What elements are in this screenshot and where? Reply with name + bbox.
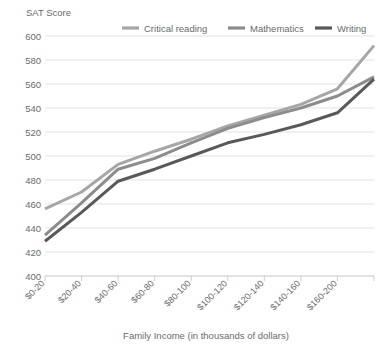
y-tick-label: 540	[25, 103, 41, 114]
x-category-label: $120-140	[232, 278, 266, 312]
legend-label-writing: Writing	[337, 23, 366, 34]
y-tick-label: 600	[25, 31, 41, 42]
y-tick-label: 480	[25, 175, 41, 186]
y-tick-label: 420	[25, 247, 41, 258]
y-tick-label: 500	[25, 151, 41, 162]
sat-score-line-chart: 400420440460480500520540560580600 $0-20$…	[0, 0, 383, 344]
y-axis-tick-labels: 400420440460480500520540560580600	[25, 31, 41, 282]
x-axis-category-labels: $0-20$20-40$40-60$60-80$80-100$100-120$1…	[23, 278, 339, 312]
legend-label-critical-reading: Critical reading	[144, 23, 207, 34]
x-category-label: $100-120	[195, 278, 229, 312]
x-category-label: $20-40	[56, 278, 83, 305]
series-line-writing	[45, 79, 374, 241]
y-tick-label: 560	[25, 79, 41, 90]
series-lines	[45, 46, 374, 242]
chart-legend: Critical readingMathematicsWriting	[122, 23, 366, 34]
x-category-label: $40-60	[93, 278, 120, 305]
series-line-critical-reading	[45, 46, 374, 209]
y-tick-label: 460	[25, 199, 41, 210]
x-category-label: $80-100	[162, 278, 192, 308]
y-tick-label: 520	[25, 127, 41, 138]
x-category-label: $60-80	[129, 278, 156, 305]
y-axis-title: SAT Score	[26, 7, 71, 18]
y-tick-label: 440	[25, 223, 41, 234]
x-axis-tick-marks	[45, 276, 374, 281]
x-category-label: $140-160	[268, 278, 302, 312]
x-axis-title: Family Income (in thousands of dollars)	[123, 330, 289, 341]
gridlines	[45, 36, 374, 276]
y-tick-label: 580	[25, 55, 41, 66]
legend-label-mathematics: Mathematics	[250, 23, 304, 34]
x-category-label: $160-200	[305, 278, 339, 312]
chart-canvas: 400420440460480500520540560580600 $0-20$…	[0, 0, 383, 344]
x-category-label: $0-20	[23, 278, 46, 301]
